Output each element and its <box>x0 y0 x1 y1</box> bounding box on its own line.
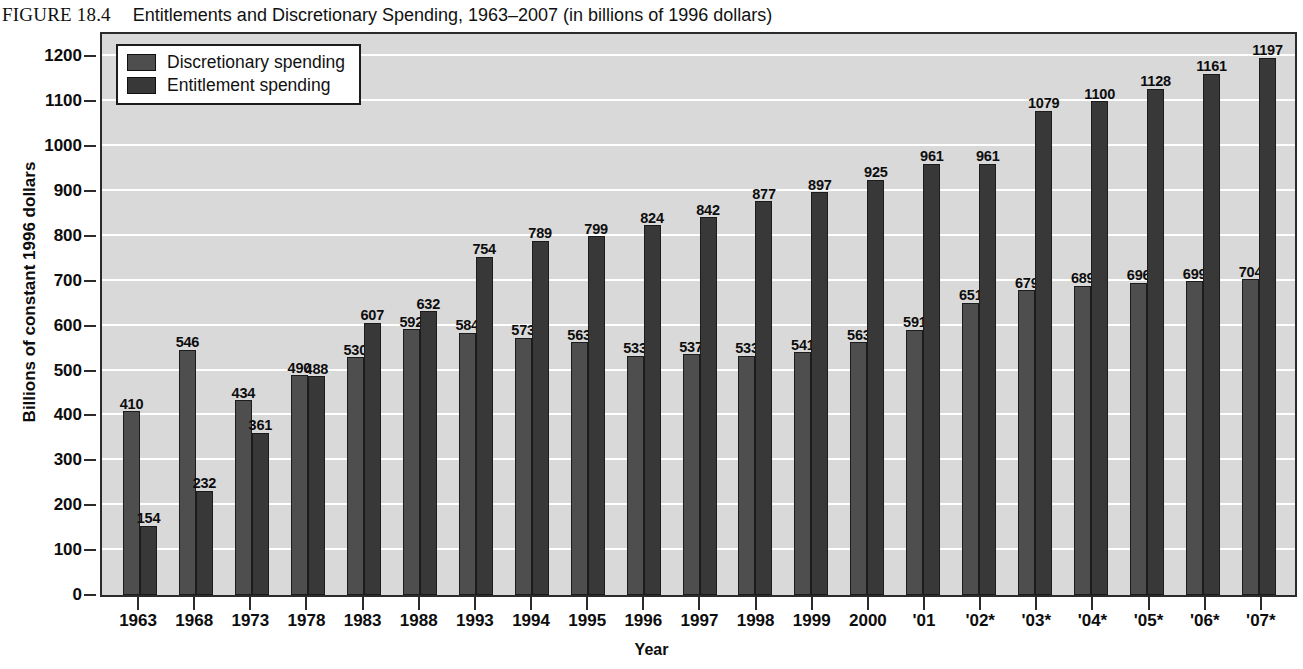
x-tick-label: 1983 <box>344 611 382 631</box>
y-tick-label: 1100 <box>45 91 82 111</box>
legend-label: Discretionary spending <box>167 52 345 73</box>
x-tick-mark <box>867 597 869 610</box>
x-tick-label: '04* <box>1078 611 1108 631</box>
x-axis: 1963196819731978198319881993199419951996… <box>100 597 1297 633</box>
bar-value-label: 1161 <box>1196 59 1227 74</box>
y-tick-label: 500 <box>54 361 82 381</box>
bar-value-label: 842 <box>696 203 720 218</box>
bar-group: 6961128 <box>1119 34 1175 595</box>
x-tick: 1998 <box>728 597 784 633</box>
chart-legend: Discretionary spendingEntitlement spendi… <box>116 44 361 105</box>
bar-discretionary: 530 <box>347 357 364 595</box>
y-tick-mark <box>84 459 96 461</box>
bar-group: 490488 <box>280 34 336 595</box>
x-tick-mark <box>698 597 700 610</box>
plot-area: 4101545462324343614904885306075926325847… <box>100 32 1297 597</box>
bar-value-label: 877 <box>752 187 776 202</box>
bars-container: 4101545462324343614904885306075926325847… <box>102 34 1295 595</box>
x-tick-mark <box>586 597 588 610</box>
bar-value-label: 607 <box>360 308 384 323</box>
legend-swatch <box>127 77 156 94</box>
x-tick-label: 1963 <box>119 611 157 631</box>
bar-value-label: 154 <box>137 511 161 526</box>
y-tick-label: 0 <box>73 585 82 605</box>
bar-discretionary: 533 <box>627 356 644 595</box>
y-tick-mark <box>84 235 96 237</box>
figure-title: Entitlements and Discretionary Spending,… <box>133 5 772 26</box>
bar-entitlement: 1100 <box>1091 101 1108 595</box>
bar-group: 563925 <box>839 34 895 595</box>
x-tick-mark <box>1035 597 1037 610</box>
bar-value-label: 361 <box>249 418 273 433</box>
bar-entitlement: 789 <box>532 241 549 595</box>
legend-swatch <box>127 54 156 71</box>
bar-discretionary: 584 <box>459 333 476 595</box>
bar-discretionary: 533 <box>738 356 755 595</box>
bar-group: 541897 <box>783 34 839 595</box>
x-tick: 1978 <box>278 597 334 633</box>
bar-value-label: 488 <box>305 362 329 377</box>
bar-value-label: 410 <box>120 397 144 412</box>
x-tick-mark <box>923 597 925 610</box>
bar-group: 6891100 <box>1063 34 1119 595</box>
x-tick: 1997 <box>671 597 727 633</box>
y-tick-label: 800 <box>54 226 82 246</box>
bar-value-label: 546 <box>176 335 200 350</box>
y-tick-mark <box>84 145 96 147</box>
y-tick-label: 400 <box>54 405 82 425</box>
bar-entitlement: 361 <box>252 433 269 595</box>
x-tick-mark <box>1091 597 1093 610</box>
x-tick-mark <box>755 597 757 610</box>
bar-value-label: 925 <box>864 165 888 180</box>
bar-entitlement: 961 <box>979 164 996 595</box>
x-tick-label: 1997 <box>681 611 719 631</box>
bar-group: 7041197 <box>1231 34 1287 595</box>
bar-entitlement: 925 <box>867 180 884 595</box>
bar-value-label: 1100 <box>1084 87 1115 102</box>
x-tick-label: 1973 <box>231 611 269 631</box>
x-tick-label: 1993 <box>456 611 494 631</box>
bar-group: 573789 <box>504 34 560 595</box>
bar-group: 592632 <box>392 34 448 595</box>
bar-entitlement: 799 <box>588 236 605 595</box>
bar-group: 530607 <box>336 34 392 595</box>
x-tick-mark <box>1148 597 1150 610</box>
x-tick: 2000 <box>840 597 896 633</box>
bar-discretionary: 490 <box>291 375 308 595</box>
bar-value-label: 824 <box>640 211 664 226</box>
bar-discretionary: 704 <box>1242 279 1259 595</box>
x-tick: '04* <box>1064 597 1120 633</box>
y-tick-label: 600 <box>54 316 82 336</box>
x-tick: 1994 <box>503 597 559 633</box>
bar-group: 584754 <box>448 34 504 595</box>
y-tick-label: 1000 <box>44 136 82 156</box>
x-tick-mark <box>979 597 981 610</box>
bar-group: 533877 <box>727 34 783 595</box>
bar-group: 6791079 <box>1007 34 1063 595</box>
y-tick-label: 200 <box>54 495 82 515</box>
y-tick-mark <box>84 55 96 57</box>
bar-discretionary: 563 <box>850 342 867 595</box>
figure-caption: FIGURE 18.4 Entitlements and Discretiona… <box>0 0 1303 30</box>
x-tick-mark <box>305 597 307 610</box>
bar-entitlement: 154 <box>140 526 157 595</box>
y-tick-label: 1200 <box>44 46 82 66</box>
x-tick-label: 1999 <box>793 611 831 631</box>
x-tick-label: 1988 <box>400 611 438 631</box>
x-tick: 1968 <box>166 597 222 633</box>
y-tick-mark <box>84 549 96 551</box>
bar-discretionary: 651 <box>962 303 979 595</box>
x-tick-mark <box>418 597 420 610</box>
x-tick-label: 1968 <box>175 611 213 631</box>
x-tick: 1983 <box>335 597 391 633</box>
x-tick-label: 1998 <box>737 611 775 631</box>
y-tick-mark <box>84 190 96 192</box>
x-tick: 1963 <box>110 597 166 633</box>
x-tick-label: 1995 <box>568 611 606 631</box>
bar-discretionary: 592 <box>403 329 420 595</box>
bar-group: 591961 <box>895 34 951 595</box>
bar-entitlement: 1079 <box>1035 111 1052 595</box>
x-tick: 1995 <box>559 597 615 633</box>
x-tick-mark <box>137 597 139 610</box>
y-tick-label: 300 <box>54 450 82 470</box>
